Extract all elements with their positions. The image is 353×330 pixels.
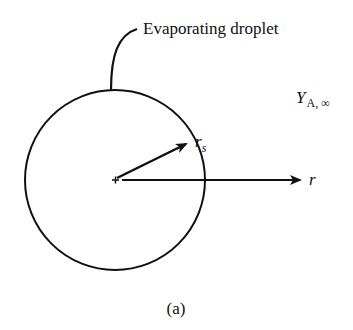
radial-axis-label: r (309, 170, 316, 189)
surface-radius-arrow (117, 144, 186, 178)
far-field-mass-fraction-label: YA, ∞ (296, 88, 330, 110)
droplet-label: Evaporating droplet (143, 19, 279, 38)
droplet-evaporation-diagram: Evaporating droplet YA, ∞ rs r (a) (0, 0, 353, 330)
diagram-canvas: Evaporating droplet YA, ∞ rs r (a) (0, 0, 353, 330)
figure-caption: (a) (167, 299, 186, 318)
leader-line (111, 29, 137, 90)
surface-radius-label: rs (195, 132, 207, 155)
